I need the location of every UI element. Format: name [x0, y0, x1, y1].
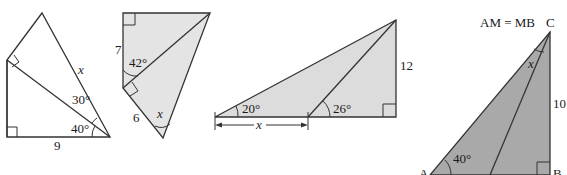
fig1-label-angle-30: 30°: [72, 92, 90, 107]
fig1-label-angle-40: 40°: [71, 121, 89, 136]
fig2-label-7: 7: [115, 42, 122, 57]
fig2-label-6: 6: [133, 110, 140, 125]
fig1-label-base: 9: [54, 138, 61, 153]
fig2-label-angle-42: 42°: [129, 55, 147, 70]
fig4-vertex-a: A: [419, 166, 429, 175]
fig1-label-x: x: [77, 62, 84, 77]
fig3-label-angle-26: 26°: [333, 101, 351, 116]
fig4-vertex-m: M: [484, 172, 496, 175]
fig4-vertex-c: C: [546, 15, 555, 30]
fig4-label-10: 10: [553, 96, 566, 111]
fig3-label-x: x: [255, 117, 262, 132]
figure-4: [430, 32, 550, 175]
fig2-label-x: x: [156, 106, 163, 121]
fig3-label-angle-20: 20°: [242, 101, 260, 116]
fig3-label-12: 12: [400, 58, 413, 73]
fig4-label-condition: AM = MB: [480, 15, 535, 30]
figure-1: [7, 13, 110, 137]
fig4-label-angle-40: 40°: [453, 151, 471, 166]
fig4-label-x: x: [527, 56, 534, 71]
diagram-canvas: x 30° 40° 9 7 42° 6 x 20° 26° 12 x: [0, 0, 567, 175]
fig4-vertex-b: B: [553, 166, 562, 175]
